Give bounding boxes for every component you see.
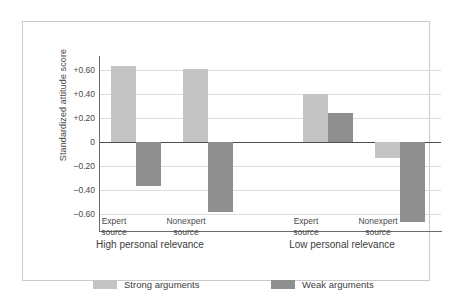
legend-swatch-icon — [93, 280, 117, 289]
y-tick-label: 0 — [55, 138, 95, 147]
bar-weak-0 — [136, 142, 161, 186]
bar-strong-2 — [303, 94, 328, 142]
bar-weak-2 — [328, 113, 353, 142]
gridline — [100, 190, 441, 191]
y-tick-label: +0.40 — [55, 90, 95, 99]
y-tick-label: +0.20 — [55, 114, 95, 123]
category-label-line: Nonexpert — [146, 216, 226, 227]
plot-area — [100, 58, 441, 226]
category-label-0: Expertsource — [74, 216, 154, 238]
group-label-0: High personal relevance — [70, 239, 230, 251]
y-tick-label: +0.60 — [55, 66, 95, 75]
gridline — [100, 70, 441, 71]
bar-strong-3 — [375, 142, 400, 158]
bar-strong-0 — [111, 66, 136, 142]
category-label-1: Nonexpertsource — [146, 216, 226, 238]
figure-frame: Standardized attitude score +0.60+0.40+0… — [22, 21, 430, 281]
gridline — [100, 94, 441, 95]
category-label-line: source — [74, 227, 154, 238]
category-label-line: source — [146, 227, 226, 238]
y-axis-tick-labels: +0.60+0.40+0.200–0.20–0.40–0.60 — [50, 58, 95, 226]
gridline — [100, 214, 441, 215]
category-label-3: Nonexpertsource — [338, 216, 418, 238]
legend-swatch-icon — [271, 280, 295, 289]
legend-item-weak[interactable]: Weak arguments — [271, 277, 374, 291]
category-label-line: Expert — [74, 216, 154, 227]
legend-label: Strong arguments — [124, 279, 200, 290]
bar-strong-1 — [183, 69, 208, 142]
legend-label: Weak arguments — [302, 279, 374, 290]
group-label-1: Low personal relevance — [262, 239, 422, 251]
category-label-line: source — [266, 227, 346, 238]
bar-weak-3 — [400, 142, 425, 222]
category-label-line: Expert — [266, 216, 346, 227]
category-label-line: source — [338, 227, 418, 238]
y-tick-label: –0.40 — [55, 186, 95, 195]
bar-weak-1 — [208, 142, 233, 212]
y-tick-label: –0.20 — [55, 162, 95, 171]
category-label-2: Expertsource — [266, 216, 346, 238]
category-label-line: Nonexpert — [338, 216, 418, 227]
legend-item-strong[interactable]: Strong arguments — [93, 277, 200, 291]
gridline — [100, 118, 441, 119]
